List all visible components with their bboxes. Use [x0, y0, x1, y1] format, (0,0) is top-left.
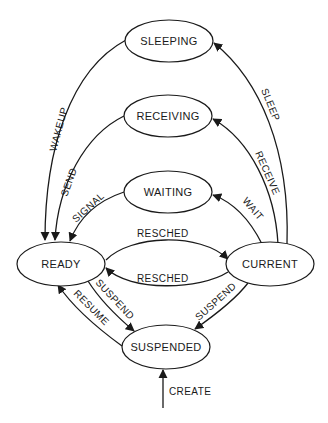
label-wait: WAIT [240, 195, 265, 222]
label-signal: SIGNAL [70, 190, 106, 224]
state-label: WAITING [144, 186, 193, 198]
state-label: READY [41, 258, 81, 270]
label-send: SEND [59, 166, 79, 197]
state-waiting: WAITING [124, 171, 212, 213]
state-label: SUSPENDED [130, 341, 201, 353]
label-create: CREATE [169, 386, 211, 397]
state-label: CURRENT [242, 258, 298, 270]
state-receiving: RECEIVING [124, 95, 212, 137]
state-suspended: SUSPENDED [122, 325, 210, 369]
label-resched-forward: RESCHED [137, 228, 189, 239]
state-label: RECEIVING [136, 110, 199, 122]
state-diagram: WAKEUP SEND SIGNAL SLEEP RECEIVE WAIT RE… [0, 0, 328, 423]
label-sleep: SLEEP [259, 87, 282, 123]
label-resched-back: RESCHED [137, 273, 189, 284]
edge-resched-forward [106, 240, 228, 260]
label-wakeup: WAKEUP [47, 106, 69, 153]
state-current: CURRENT [226, 242, 314, 286]
state-ready: READY [17, 242, 105, 286]
state-label: SLEEPING [140, 35, 197, 47]
state-sleeping: SLEEPING [125, 20, 213, 62]
